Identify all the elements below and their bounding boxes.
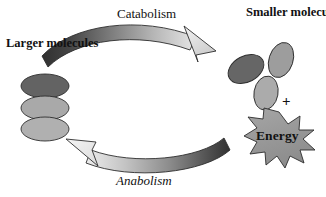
energy-label: Energy <box>256 128 299 143</box>
catabolism-label: Catabolism <box>117 7 176 22</box>
smaller-molecules-label: Smaller molecules <box>246 5 326 19</box>
diagram-canvas <box>0 0 326 197</box>
larger-molecules-group <box>21 74 69 141</box>
anabolism-arrow-head <box>66 139 98 166</box>
larger-molecule-bottom <box>21 117 69 141</box>
larger-molecules-label: Larger molecules <box>6 36 82 50</box>
smaller-molecule-lower <box>251 74 281 112</box>
anabolism-arrow-band <box>86 138 230 173</box>
larger-molecule-middle <box>21 96 69 120</box>
anabolism-label: Anabolism <box>116 174 172 189</box>
larger-molecule-top <box>21 74 69 98</box>
metabolism-cycle-diagram: Larger molecules Smaller molecules Catab… <box>0 0 326 197</box>
plus-sign-label: + <box>282 93 291 110</box>
anabolism-arrow <box>66 138 230 173</box>
smaller-molecule-upper-right <box>264 39 298 81</box>
